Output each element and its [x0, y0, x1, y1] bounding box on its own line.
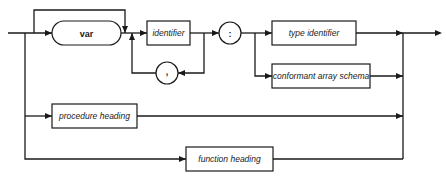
- arrowheads: [45, 26, 442, 162]
- var-label: var: [80, 29, 94, 39]
- identifier-label: identifier: [152, 28, 185, 38]
- conformant-array-schema-label: conformant array schema: [273, 71, 370, 81]
- colon-node: :: [219, 22, 241, 44]
- identifier-node: identifier: [147, 21, 190, 45]
- function-heading-label: function heading: [198, 154, 261, 164]
- var-terminal: var: [52, 21, 121, 45]
- colon-label: :: [229, 29, 232, 39]
- comma-label: ,: [166, 67, 169, 77]
- procedure-heading-node: procedure heading: [52, 104, 137, 128]
- conformant-array-schema-node: conformant array schema: [272, 64, 370, 88]
- type-identifier-label: type identifier: [289, 28, 341, 38]
- procedure-heading-label: procedure heading: [58, 111, 130, 121]
- comma-node: ,: [156, 62, 178, 84]
- type-identifier-node: type identifier: [272, 21, 356, 45]
- syntax-diagram: var identifier : , type identifier confo…: [0, 0, 446, 179]
- function-heading-node: function heading: [186, 147, 273, 171]
